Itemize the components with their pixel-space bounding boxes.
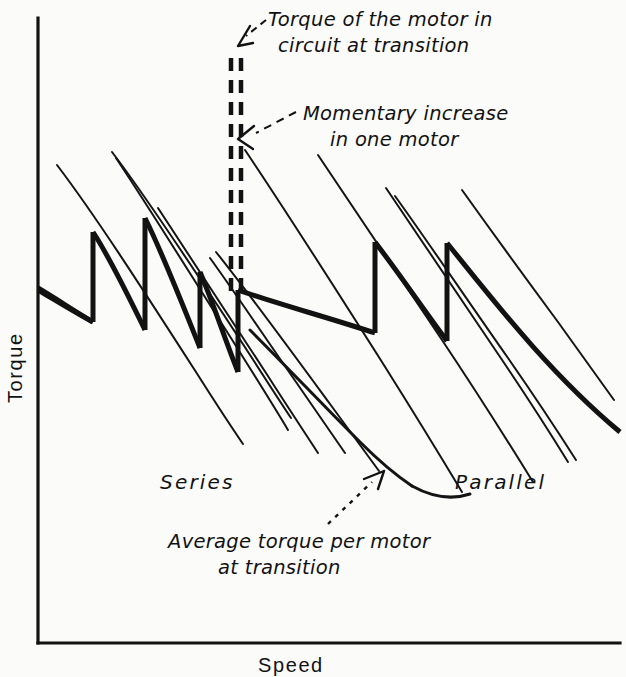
annotation-torque-of-motor-line1: Torque of the motor in: [268, 8, 493, 31]
thin-curve-9: [386, 188, 568, 462]
leader-average-torque: [328, 482, 372, 524]
torque-speed-diagram: Torque of the motor in circuit at transi…: [0, 0, 626, 677]
average-torque-curve: [250, 330, 470, 497]
envelope-arc-6: [447, 243, 620, 432]
region-label-group: Series Parallel: [160, 470, 546, 494]
annotation-momentary-increase-line1: Momentary increase: [303, 102, 508, 125]
leader-momentary-increase: [256, 112, 296, 133]
axis-label-group: Torque Speed: [4, 332, 324, 676]
y-axis-label: Torque: [4, 332, 26, 403]
x-axis-label: Speed: [258, 654, 324, 676]
region-label-series: Series: [160, 470, 235, 494]
heavy-entry-path: [38, 288, 93, 322]
annotation-average-torque-line1: Average torque per motor: [166, 530, 432, 553]
leader-arrowhead-torque-of-motor: [238, 26, 253, 46]
heavy-entry-arc: [38, 288, 93, 322]
thin-curve-10: [395, 196, 576, 460]
region-label-parallel: Parallel: [455, 470, 546, 494]
heavy-torque-envelope: [38, 218, 620, 432]
leader-arrowhead-average-torque: [364, 471, 384, 489]
transition-dashed-marker: [231, 58, 241, 300]
thin-curve-11: [462, 190, 614, 400]
annotation-torque-of-motor-line2: circuit at transition: [278, 34, 470, 57]
figure-container: Torque of the motor in circuit at transi…: [0, 0, 626, 677]
annotation-average-torque-line2: at transition: [218, 556, 341, 579]
annotation-momentary-increase-line2: in one motor: [330, 128, 460, 151]
envelope-arc-5: [375, 242, 447, 341]
